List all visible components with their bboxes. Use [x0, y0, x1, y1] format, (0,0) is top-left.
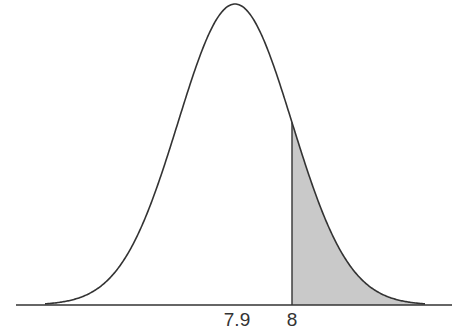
tick-label-cutoff: 8: [287, 309, 298, 330]
tick-label-mean: 7.9: [224, 309, 250, 330]
normal-curve-diagram: 7.9 8: [0, 0, 458, 335]
normal-density-curve: [45, 4, 425, 304]
shaded-right-tail-area: [292, 122, 425, 305]
